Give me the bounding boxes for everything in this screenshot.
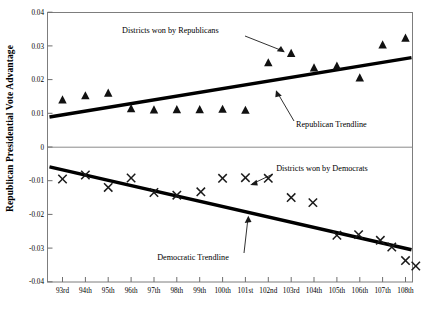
- x-tick-label: 95th: [102, 287, 115, 295]
- vote-advantage-scatter-chart: 0.04 0.03 0.02 0.01 0 -0.01 -0.02 -0.03 …: [0, 0, 425, 311]
- y-tick-label: -0.03: [29, 245, 44, 253]
- x-tick-label: 103rd: [283, 287, 300, 295]
- x-tick-label: 107th: [374, 287, 391, 295]
- y-tick-label: 0.01: [31, 110, 44, 118]
- annotation-label: Democratic Trendline: [157, 253, 229, 262]
- y-tick-label: 0.04: [31, 9, 44, 17]
- y-tick-label: -0.01: [29, 177, 44, 185]
- chart-figure: 0.04 0.03 0.02 0.01 0 -0.01 -0.02 -0.03 …: [0, 0, 425, 311]
- x-tick-label: 97th: [148, 287, 161, 295]
- annotation-label: Republican Trendline: [296, 120, 367, 129]
- x-tick-label: 104th: [306, 287, 323, 295]
- x-tick-label: 98th: [170, 287, 183, 295]
- x-tick-label: 99th: [193, 287, 206, 295]
- y-tick-label: 0: [40, 144, 44, 152]
- x-tick-label: 96th: [125, 287, 138, 295]
- x-tick-label: 94th: [79, 287, 92, 295]
- y-axis-title: Republican Presidential Vote Advantage: [5, 45, 15, 212]
- x-tick-label: 106th: [352, 287, 369, 295]
- x-tick-label: 108th: [397, 287, 414, 295]
- x-tick-label: 102nd: [259, 287, 277, 295]
- y-tick-label: 0.02: [31, 76, 44, 84]
- annotation-label: Districts won by Republicans: [122, 26, 219, 35]
- annotation-label: Districts won by Democrats: [276, 164, 368, 173]
- x-tick-label: 101st: [238, 287, 254, 295]
- x-tick-label: 100th: [214, 287, 231, 295]
- y-tick-label: -0.02: [29, 211, 44, 219]
- chart-background: [0, 0, 425, 311]
- y-tick-label: 0.03: [31, 43, 44, 51]
- x-tick-label: 93rd: [56, 287, 70, 295]
- x-tick-label: 105th: [329, 287, 346, 295]
- y-tick-label: -0.04: [29, 278, 44, 286]
